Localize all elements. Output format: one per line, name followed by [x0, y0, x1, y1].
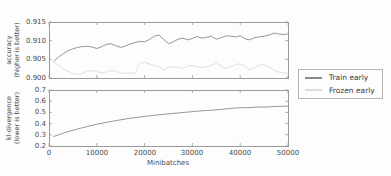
legend: Train early Frozen early: [298, 69, 383, 99]
xtick-30000: 30000: [172, 149, 212, 157]
bottom-ytick-04: 0.4: [20, 120, 46, 128]
legend-label-train-early: Train early: [329, 73, 368, 82]
xtick-20000: 20000: [125, 149, 165, 157]
xtick-50000: 50000: [268, 149, 308, 157]
legend-entry-train-early: Train early: [299, 73, 382, 82]
top-ytick-0910: 0.910: [20, 37, 46, 45]
frozen-early-line-sample: [305, 89, 322, 91]
bottom-ytick-05: 0.5: [20, 108, 46, 116]
figure: 0.915 0.910 0.905 0.900 accuracy (higher…: [0, 0, 391, 176]
bottom-ytick-07: 0.7: [20, 86, 46, 94]
xtick-10000: 10000: [77, 149, 117, 157]
bottom-ytick-03: 0.3: [20, 131, 46, 139]
bottom-y-axis-label-line1: kl-divergence: [5, 78, 13, 158]
bottom-y-axis-label-line2: (lower is better): [13, 78, 21, 158]
xtick-40000: 40000: [220, 149, 260, 157]
bottom-ytick-06: 0.6: [20, 97, 46, 105]
top-ytick-0900: 0.900: [20, 74, 46, 82]
top-ytick-0905: 0.905: [20, 55, 46, 63]
legend-entry-frozen-early: Frozen early: [299, 86, 382, 95]
bottom-y-axis-label: kl-divergence (lower is better): [5, 78, 21, 158]
legend-label-frozen-early: Frozen early: [329, 86, 375, 95]
x-axis-label: Minibatches: [118, 159, 218, 167]
train-early-line-sample: [305, 77, 322, 79]
top-ytick-0915: 0.915: [20, 18, 46, 26]
xtick-0: 0: [29, 149, 69, 157]
